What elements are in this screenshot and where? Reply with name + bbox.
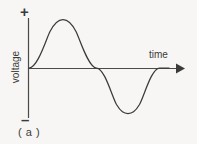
x-axis-label-time: time	[149, 50, 168, 60]
waveform-plot-svg	[0, 0, 197, 144]
figure-caption: ( a )	[18, 127, 40, 138]
x-axis-arrowhead-icon	[176, 64, 185, 74]
waveform-figure: + – voltage time ( a )	[0, 0, 197, 144]
y-axis-label-voltage: voltage	[11, 39, 21, 95]
negative-polarity-marker: –	[21, 112, 29, 127]
sine-wave-curve	[29, 20, 169, 114]
positive-polarity-marker: +	[20, 4, 29, 19]
